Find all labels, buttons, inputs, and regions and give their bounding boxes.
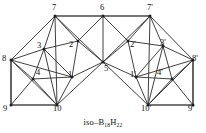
vertex-label-4: 4 xyxy=(36,68,40,77)
borane-skeleton-figure: 123456789101'2'3'4'7'8'9'10' iso–B18H22 xyxy=(0,0,206,133)
graph-edge xyxy=(72,62,103,77)
graph-edge xyxy=(78,41,103,62)
graph-vertex-6 xyxy=(102,15,105,18)
vertex-label-5: 5 xyxy=(104,64,108,73)
vertex-label-1p: 1' xyxy=(130,70,136,79)
graph-edge xyxy=(11,79,33,105)
vertex-label-9: 9 xyxy=(3,104,7,113)
vertex-label-2: 2 xyxy=(69,40,73,49)
graph-vertex-9 xyxy=(10,104,13,107)
vertex-label-7p: 7' xyxy=(147,3,153,12)
vertex-label-8: 8 xyxy=(2,54,6,63)
graph-vertex-2 xyxy=(77,40,80,43)
graph-vertex-8 xyxy=(10,59,13,62)
caption-prefix: iso–B xyxy=(83,117,104,127)
graph-edge xyxy=(148,16,150,105)
graph-edge xyxy=(103,16,128,41)
graph-edge xyxy=(57,77,72,105)
graph-edge xyxy=(163,46,193,60)
graph-edge xyxy=(103,62,148,105)
graph-vertex-7 xyxy=(54,15,57,18)
skeleton-graph xyxy=(0,0,206,133)
vertex-label-8p: 8' xyxy=(192,54,198,63)
caption-hydrogen-count: 22 xyxy=(117,122,123,128)
vertex-label-2p: 2' xyxy=(130,40,136,49)
edge-layer xyxy=(11,16,193,105)
graph-vertex-7p xyxy=(149,15,152,18)
vertex-label-9p: 9' xyxy=(188,104,194,113)
vertex-label-6: 6 xyxy=(100,3,104,12)
vertex-label-1: 1 xyxy=(68,70,72,79)
vertex-label-4p: 4' xyxy=(157,68,163,77)
graph-edge xyxy=(78,16,103,41)
graph-edge xyxy=(103,41,128,62)
caption-hydrogen-symbol: H xyxy=(110,117,116,127)
vertex-label-3: 3 xyxy=(37,41,41,50)
graph-edge xyxy=(44,49,57,105)
figure-caption: iso–B18H22 xyxy=(0,117,206,127)
vertex-label-10: 10 xyxy=(53,104,62,113)
graph-edge xyxy=(172,79,193,105)
graph-vertex-4p xyxy=(171,78,174,81)
graph-vertex-4 xyxy=(32,78,35,81)
graph-edge xyxy=(33,79,57,105)
graph-edge xyxy=(136,77,172,79)
vertex-label-10p: 10' xyxy=(141,104,151,113)
graph-edge xyxy=(163,46,172,79)
vertex-label-7: 7 xyxy=(52,3,56,12)
graph-edge xyxy=(136,77,148,105)
graph-edge xyxy=(33,77,72,79)
vertex-label-3p: 3' xyxy=(160,38,166,47)
graph-vertex-3 xyxy=(43,48,46,51)
caption-boron-count: 18 xyxy=(104,122,110,128)
